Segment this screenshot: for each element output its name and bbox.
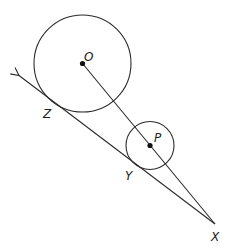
label-y: Y [125, 169, 134, 183]
label-o: O [84, 50, 93, 64]
label-x: X [210, 230, 220, 244]
geometry-diagram: O Z P Y X [0, 0, 238, 250]
label-z: Z [42, 107, 52, 121]
point-p [147, 143, 152, 148]
label-p: P [154, 131, 162, 145]
